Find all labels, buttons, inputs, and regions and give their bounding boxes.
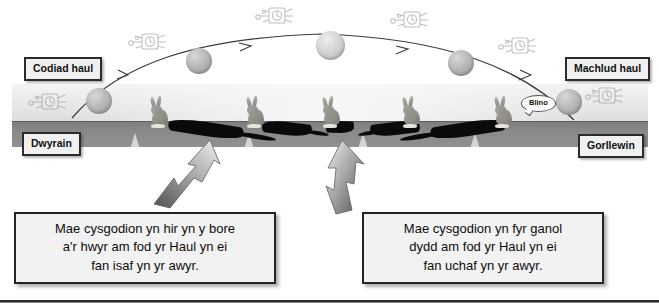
sun-position-2 <box>186 48 212 74</box>
speech-bubble-blino: Blino <box>521 95 556 112</box>
caption-long-shadows: Mae cysgodion yn hir yn y bore a'r hwyr … <box>14 212 276 284</box>
clock-icon <box>386 8 434 32</box>
caption-short-shadows: Mae cysgodion yn fyr ganol dydd am fod y… <box>362 212 604 284</box>
clock-icon <box>581 84 629 108</box>
label-machlud-haul: Machlud haul <box>565 57 650 81</box>
caption-line: fan isaf yn yr awyr. <box>24 257 266 275</box>
pointer-arrow-left <box>148 138 232 212</box>
sun-position-1 <box>86 88 112 114</box>
rabbit-head <box>495 105 506 115</box>
rabbit-foot <box>403 124 417 128</box>
caption-line: fan uchaf yn yr awyr. <box>372 257 594 275</box>
rabbit-head <box>403 105 414 115</box>
clock-icon <box>251 4 299 28</box>
diagram-canvas: Blino Codiad haul Machlud haul Dwyrain G… <box>0 0 659 308</box>
caption-line: Mae cysgodion yn fyr ganol <box>372 220 594 238</box>
rabbit-foot <box>151 124 165 128</box>
clock-icon <box>124 30 172 54</box>
sun-position-5 <box>556 89 582 115</box>
rabbit-4 <box>400 100 424 128</box>
ground-marking <box>130 133 140 147</box>
rabbit-foot <box>323 124 337 128</box>
rabbit-2 <box>244 100 268 128</box>
rabbit-1 <box>148 100 172 128</box>
rabbit-foot <box>495 124 509 128</box>
rabbit-foot <box>247 124 261 128</box>
pointer-arrow-right <box>320 138 398 218</box>
caption-line: Mae cysgodion yn hir yn y bore <box>24 220 266 238</box>
rabbit-head <box>151 105 162 115</box>
clock-icon <box>24 90 72 114</box>
label-codiad-haul: Codiad haul <box>24 57 102 81</box>
rabbit-5 <box>492 100 516 128</box>
footer-divider <box>0 300 659 303</box>
caption-line: a'r hwyr am fod yr Haul yn ei <box>24 238 266 256</box>
label-dwyrain: Dwyrain <box>22 132 81 156</box>
clock-icon <box>494 34 542 58</box>
caption-line: dydd am fod yr Haul yn ei <box>372 238 594 256</box>
rabbit-head <box>323 105 334 115</box>
sun-position-3-noon <box>316 31 345 60</box>
rabbit-head <box>247 105 258 115</box>
label-gorllewin: Gorllewin <box>578 134 644 158</box>
rabbit-3-noon <box>320 100 344 128</box>
sun-position-4 <box>448 50 474 76</box>
